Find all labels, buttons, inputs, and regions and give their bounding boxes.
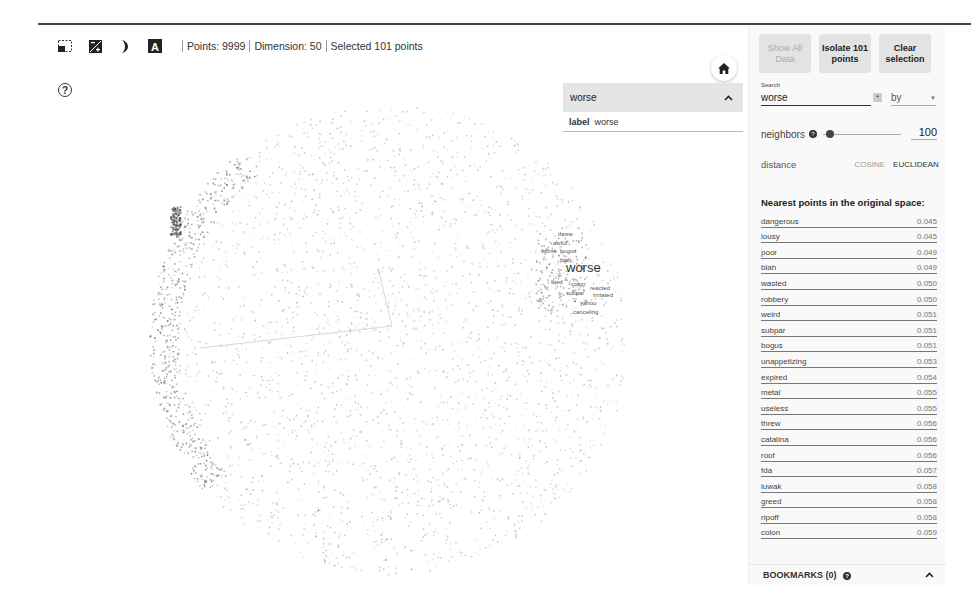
bookmarks-label: BOOKMARKS (0) [763, 570, 837, 580]
distance-label: distance [761, 159, 796, 170]
dropdown-caret-icon: ▼ [930, 95, 936, 101]
nearest-point-row[interactable]: bogus0.051 [761, 337, 937, 353]
reset-view-button[interactable] [711, 55, 737, 81]
night-mode-icon[interactable] [88, 39, 102, 53]
neighbor-distance: 0.045 [917, 217, 937, 226]
inspector-field: label worse [563, 112, 743, 132]
neighbor-word: robbery [761, 295, 788, 304]
nearest-point-row[interactable]: luwak0.058 [761, 477, 937, 493]
isolate-points-button[interactable]: Isolate 101 points [819, 34, 871, 73]
neighbor-word: blah [761, 263, 776, 272]
neighbor-word: wasted [761, 279, 786, 288]
distance-euclidean-option[interactable]: EUCLIDEAN [893, 160, 939, 169]
neighbor-distance: 0.053 [917, 357, 937, 366]
home-icon [718, 63, 730, 74]
neighbor-distance: 0.051 [917, 326, 937, 335]
svg-text:threw: threw [558, 231, 573, 237]
clear-selection-button[interactable]: Clear selection [879, 34, 931, 73]
neighbor-distance: 0.049 [917, 248, 937, 257]
neighbors-slider[interactable] [823, 127, 901, 141]
neighbor-distance: 0.049 [917, 263, 937, 272]
nearest-point-row[interactable]: fda0.057 [761, 462, 937, 478]
neighbor-word: fda [761, 466, 772, 475]
help-icon[interactable]: ? [809, 130, 817, 138]
neighbor-word: threw [761, 419, 781, 428]
nearest-point-row[interactable]: threw0.056 [761, 415, 937, 431]
svg-text:subpar: subpar [566, 290, 584, 296]
nearest-point-row[interactable]: weird0.051 [761, 306, 937, 322]
svg-text:worst: worst [540, 248, 556, 254]
box-select-icon[interactable] [58, 39, 72, 53]
nearest-point-row[interactable]: greed0.058 [761, 493, 937, 509]
nearest-point-row[interactable]: catalina0.056 [761, 430, 937, 446]
nearest-point-row[interactable]: unappetizing0.053 [761, 352, 937, 368]
neighbor-word: ripoff [761, 513, 779, 522]
neighbor-word: metal [761, 388, 781, 397]
help-icon[interactable]: ? [843, 572, 851, 580]
points-count: Points: 9999 [187, 40, 245, 52]
search-by-select[interactable]: by ▼ [891, 90, 936, 106]
neighbor-distance: 0.059 [917, 528, 937, 537]
nearest-point-row[interactable]: subpar0.051 [761, 321, 937, 337]
field-value: worse [595, 117, 619, 127]
dataset-stats: Points: 9999 Dimension: 50 Selected 101 … [178, 40, 423, 52]
neighbor-word: unappetizing [761, 357, 806, 366]
distance-cosine-option[interactable]: COSINE [854, 160, 885, 169]
neighbor-word: weird [761, 310, 780, 319]
neighbor-distance: 0.045 [917, 232, 937, 241]
selected-count: Selected 101 points [331, 40, 423, 52]
regex-toggle[interactable]: * [873, 93, 882, 102]
nearest-point-row[interactable]: ripoff0.058 [761, 508, 937, 524]
neighbors-label: neighbors [761, 129, 805, 140]
svg-text:awful: awful [553, 240, 567, 246]
text-label-icon[interactable]: A [148, 39, 162, 53]
svg-text:irritated: irritated [593, 292, 613, 298]
neighbor-word: colon [761, 528, 780, 537]
neighbor-word: greed [761, 497, 781, 506]
field-key: label [569, 117, 590, 127]
nearest-point-row[interactable]: roof0.056 [761, 446, 937, 462]
nearest-point-row[interactable]: blah0.049 [761, 259, 937, 275]
nearest-point-row[interactable]: useless0.055 [761, 399, 937, 415]
nearest-point-row[interactable]: expired0.054 [761, 368, 937, 384]
show-all-data-button[interactable]: Show All Data [759, 34, 811, 73]
neighbor-distance: 0.058 [917, 482, 937, 491]
nearest-point-row[interactable]: dangerous0.045 [761, 212, 937, 228]
inspector-title: worse [570, 92, 597, 103]
chevron-up-icon[interactable] [925, 572, 934, 578]
neighbor-word: bogus [761, 341, 783, 350]
nearest-point-row[interactable]: colon0.059 [761, 524, 937, 540]
svg-text:bogus: bogus [560, 248, 576, 254]
svg-text:colon: colon [571, 281, 585, 287]
inspector-header[interactable]: worse [563, 83, 743, 112]
nearest-point-row[interactable]: poor0.049 [761, 243, 937, 259]
neighbor-distance: 0.050 [917, 279, 937, 288]
search-input[interactable] [761, 90, 871, 106]
nearest-point-row[interactable]: wasted0.050 [761, 274, 937, 290]
by-label: by [891, 92, 902, 103]
scatter-canvas[interactable]: threwawfulworstbogusblahfriedcolonreacte… [0, 60, 745, 609]
neighbor-word: subpar [761, 326, 785, 335]
neighbors-value-input[interactable]: 100 [911, 126, 937, 140]
top-divider [38, 23, 971, 25]
neighbor-word: dangerous [761, 217, 799, 226]
svg-text:canceling: canceling [573, 309, 598, 315]
dimension-count: Dimension: 50 [254, 40, 321, 52]
neighbor-word: catalina [761, 435, 789, 444]
toolbar: A Points: 9999 Dimension: 50 Selected 10… [58, 37, 423, 55]
projection-plot[interactable]: threwawfulworstbogusblahfriedcolonreacte… [0, 60, 745, 609]
nearest-points-title: Nearest points in the original space: [761, 197, 925, 208]
nearest-points-list: dangerous0.045lousy0.045poor0.049blah0.0… [761, 212, 937, 539]
neighbor-distance: 0.056 [917, 419, 937, 428]
bookmarks-header[interactable]: BOOKMARKS (0) ? [749, 564, 946, 585]
nearest-point-row[interactable]: lousy0.045 [761, 228, 937, 244]
nearest-point-row[interactable]: robbery0.050 [761, 290, 937, 306]
neighbor-distance: 0.057 [917, 466, 937, 475]
slider-thumb[interactable] [826, 130, 834, 138]
neighbor-distance: 0.054 [917, 373, 937, 382]
label-mode-icon[interactable] [118, 39, 132, 53]
chevron-up-icon[interactable] [724, 95, 733, 101]
neighbor-distance: 0.056 [917, 451, 937, 460]
neighbor-word: poor [761, 248, 777, 257]
nearest-point-row[interactable]: metal0.055 [761, 384, 937, 400]
